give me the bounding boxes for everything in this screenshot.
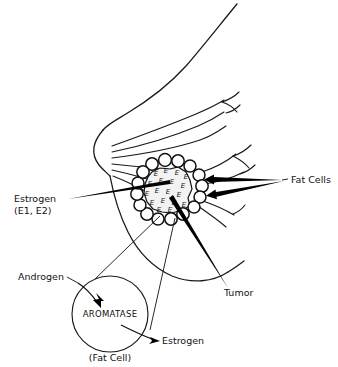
estrogen-output-annotation: Estrogen	[121, 325, 204, 346]
diagram-canvas: EEEEEEEEEEEEEEEEEE Fat Cells Estrogen (E…	[0, 0, 338, 367]
breast-outline-group	[94, 4, 244, 281]
aromatase-cell-group: AROMATASE (Fat Cell)	[72, 276, 148, 363]
fat-cell-8	[188, 201, 200, 213]
androgen-inflow-arrowhead	[93, 293, 104, 308]
estrogen-marker-e2: E	[164, 167, 169, 175]
duct-right-trunk-1	[202, 154, 236, 172]
breast-aromatase-diagram: EEEEEEEEEEEEEEEEEE Fat Cells Estrogen (E…	[0, 0, 338, 367]
estrogen-product-label: Estrogen	[162, 335, 204, 346]
estrogen-label: Estrogen	[14, 193, 56, 204]
duct-upper-3	[112, 126, 226, 158]
estrogen-marker-e9: E	[145, 190, 150, 198]
fat-cells-arrow-lower	[206, 181, 284, 199]
estrogen-marker-e3: E	[175, 169, 180, 177]
estrogen-outflow-curve	[121, 325, 152, 339]
nipple-contour	[94, 130, 110, 176]
estrogen-sublabel: (E1, E2)	[14, 205, 52, 216]
connector-left	[95, 216, 160, 279]
milk-duct-group-upper	[112, 92, 240, 158]
fat-cell-10	[165, 213, 177, 225]
breast-upper-contour	[103, 4, 237, 130]
tumor-annotation: Tumor	[169, 195, 253, 298]
fat-cell-4	[184, 160, 196, 172]
estrogen-marker-e17: E	[168, 206, 173, 214]
duct-branch-right-b	[233, 156, 249, 168]
duct-branch-upper-a	[222, 92, 239, 102]
estrogen-marker-e16: E	[157, 206, 162, 214]
estrogen-marker-e14: E	[161, 197, 166, 205]
androgen-inflow-curve	[78, 283, 97, 302]
fat-cell-6	[196, 180, 208, 192]
chest-wall-contour	[228, 261, 244, 272]
tumor-label: Tumor	[223, 287, 253, 298]
fat-cell-16	[137, 166, 149, 178]
estrogen-marker-e12: E	[177, 191, 182, 199]
fat-cells-label: Fat Cells	[291, 174, 331, 185]
fat-cell-3	[172, 155, 184, 167]
estrogen-marker-e18: E	[182, 201, 187, 209]
duct-upper-2	[112, 112, 224, 152]
fat-cell-2	[159, 154, 172, 167]
estrogen-marker-e13: E	[150, 199, 155, 207]
androgen-leader	[67, 277, 78, 283]
aromatase-label: AROMATASE	[83, 309, 138, 319]
duct-upper-1	[112, 100, 224, 146]
androgen-annotation: Androgen	[18, 271, 104, 308]
fat-cells-leader	[282, 179, 288, 180]
fat-cells-arrow-upper	[204, 175, 282, 185]
duct-branch-upper-c	[226, 105, 240, 113]
estrogen-marker-e7: E	[170, 178, 175, 186]
duct-branch-upper-b	[222, 102, 237, 112]
duct-lower-right-3	[233, 205, 245, 214]
estrogen-marker-e8: E	[181, 182, 186, 190]
estrogen-marker-e11: E	[166, 188, 171, 196]
estrogen-marker-e10: E	[155, 187, 160, 195]
estrogen-outflow-arrowhead	[149, 337, 160, 344]
androgen-label: Androgen	[18, 271, 64, 282]
fat-cell-note-label: (Fat Cell)	[89, 352, 131, 363]
duct-lower-right-1	[200, 200, 234, 215]
fat-cells-annotation: Fat Cells	[204, 174, 331, 199]
estrogen-marker-e4: E	[184, 173, 189, 181]
connector-right	[150, 218, 175, 330]
